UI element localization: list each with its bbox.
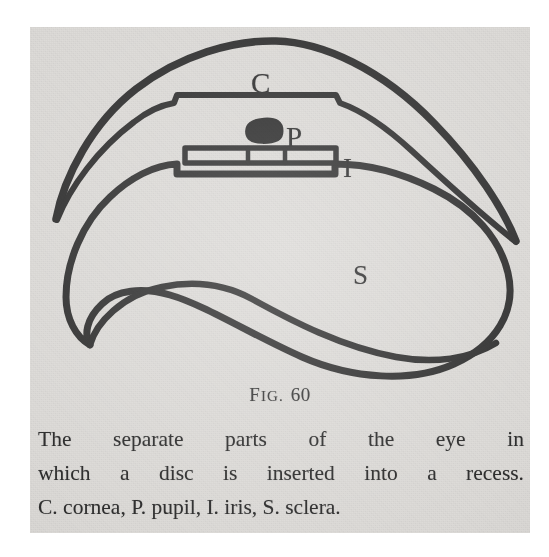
caption-word: a — [120, 456, 130, 490]
scanned-page: C P I S FIG.60 The separate parts of the… — [0, 0, 549, 557]
label-sclera: S — [353, 262, 368, 289]
caption-word: the — [368, 422, 394, 456]
caption-word: The — [38, 422, 71, 456]
figure-caption: The separate parts of the eye in which a… — [38, 422, 524, 524]
caption-word: into — [364, 456, 397, 490]
cornea-inner-edge — [57, 95, 516, 242]
label-pupil: P — [286, 123, 302, 152]
iris-disc-body — [185, 148, 336, 163]
caption-word: inserted — [267, 456, 335, 490]
caption-word: in — [507, 422, 524, 456]
label-cornea: C — [251, 69, 270, 98]
figure-number-value: 60 — [291, 384, 311, 405]
caption-word: is — [223, 456, 237, 490]
label-iris: I — [343, 155, 352, 182]
caption-word: separate — [113, 422, 183, 456]
caption-line-1: The separate parts of the eye in — [38, 422, 524, 456]
caption-word: of — [308, 422, 326, 456]
paper-area: C P I S FIG.60 The separate parts of the… — [30, 27, 530, 533]
pupil-blob — [246, 119, 282, 143]
caption-line-2: which a disc is inserted into a recess. — [38, 456, 524, 490]
caption-word: disc — [159, 456, 194, 490]
caption-word: parts — [225, 422, 267, 456]
sclera-outer-outline — [66, 164, 510, 376]
figure-number-prefix-rest: IG. — [261, 388, 284, 404]
sclera-inner-curve — [90, 284, 496, 360]
figure-number-prefix-initial: F — [249, 384, 261, 405]
caption-word: which — [38, 456, 91, 490]
caption-line-3: C. cornea, P. pupil, I. iris, S. sclera. — [38, 490, 524, 524]
caption-word: eye — [436, 422, 466, 456]
caption-word: a — [427, 456, 437, 490]
eye-diagram — [30, 27, 530, 387]
caption-word: recess. — [466, 456, 524, 490]
figure-number: FIG.60 — [30, 384, 530, 406]
